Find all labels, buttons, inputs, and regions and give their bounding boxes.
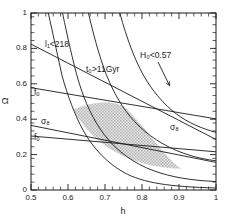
curve-label-sigma8-left: σ₈ xyxy=(41,117,50,126)
x-axis-title: h xyxy=(120,207,125,216)
x-tick-label-2: 0.7 xyxy=(99,194,110,202)
cosmology-constraint-figure: 0.5 0.6 0.7 0.8 0.9 1 0 0.2 0.4 0.6 0.8 … xyxy=(0,0,232,221)
curve-label-sigma8-right: σ₈ xyxy=(170,123,179,132)
x-tick-label-4: 0.9 xyxy=(173,194,184,202)
curve-label-fb-lower: fₒ xyxy=(34,133,40,142)
y-tick-label-0: 0 xyxy=(14,186,27,194)
x-tick-label-1: 0.6 xyxy=(62,194,73,202)
y-tick-label-2: 0.4 xyxy=(10,115,27,123)
y-tick-label-5: 1 xyxy=(14,9,27,17)
plot-canvas xyxy=(0,0,232,221)
curve-label-l1: l₁<218 xyxy=(45,40,69,49)
y-tick-label-4: 0.8 xyxy=(10,44,27,52)
curve-label-H0: H₀<0.57 xyxy=(140,51,171,60)
curve-label-fb-upper: fₒ xyxy=(34,88,40,97)
y-tick-label-3: 0.6 xyxy=(10,80,27,88)
y-axis-title: Ω xyxy=(1,98,10,105)
x-tick-label-3: 0.8 xyxy=(136,194,147,202)
y-tick-label-1: 0.2 xyxy=(10,151,27,159)
curve-label-t0: t₀>11Gyr xyxy=(86,65,119,74)
x-tick-label-0: 0.5 xyxy=(25,194,36,202)
x-tick-label-5: 1 xyxy=(214,194,218,202)
